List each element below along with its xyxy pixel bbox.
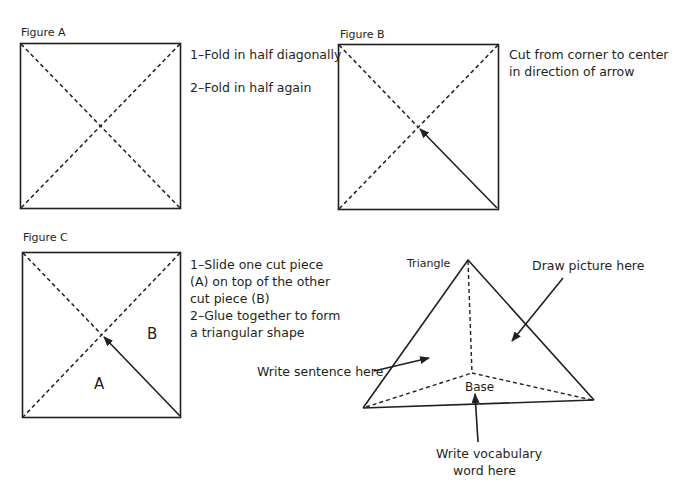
figure-c-instruction-5: a triangular shape	[190, 324, 305, 341]
figure-a-square	[21, 44, 181, 209]
figure-c-instruction-1: 1–Slide one cut piece	[190, 256, 323, 273]
write-sentence-label: Write sentence here	[257, 363, 383, 380]
figure-a-step-2: 2–Fold in half again	[190, 79, 311, 96]
figure-b-instruction-1: Cut from corner to center	[509, 46, 669, 63]
cut-arrow-b	[420, 129, 497, 208]
figure-b-title: Figure B	[340, 28, 385, 41]
apex-label: Triangle	[407, 257, 450, 270]
figure-b-instruction-2: in direction of arrow	[509, 63, 634, 80]
figure-c-instruction-4: 2–Glue together to form	[190, 307, 340, 324]
piece-a-label: A	[94, 375, 104, 393]
vocabulary-label-2: word here	[453, 462, 516, 479]
figure-a-step-1: 1–Fold in half diagonally	[190, 46, 341, 63]
figure-c-instruction-2: (A) on top of the other	[190, 273, 330, 290]
piece-b-label: B	[147, 325, 157, 343]
figure-b-square	[339, 45, 499, 210]
figure-c-title: Figure C	[23, 231, 68, 244]
figure-c-instruction-3: cut piece (B)	[190, 290, 270, 307]
vocabulary-label-1: Write vocabulary	[436, 445, 542, 462]
draw-picture-label: Draw picture here	[532, 257, 644, 274]
pyramid-shape	[363, 260, 594, 442]
cut-arrow-c	[104, 337, 180, 416]
base-label: Base	[465, 381, 494, 394]
arrow-vocabulary	[475, 394, 478, 442]
figure-a-title: Figure A	[21, 26, 66, 39]
arrow-draw-picture	[512, 278, 563, 341]
